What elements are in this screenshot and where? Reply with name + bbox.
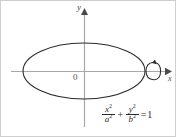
equation-term2-numerator-exponent: 2 (133, 103, 136, 109)
equation-term-x-over-a: x2 a2 (102, 105, 115, 125)
ellipse-figure: y x 0 x2 a2 + y2 b2 = 1 (0, 0, 176, 137)
x-axis-label: x (168, 75, 172, 83)
equation-equals-sign: = (141, 110, 147, 120)
equation-term1-denominator-exponent: 2 (109, 113, 112, 119)
equation-right-hand-value: 1 (147, 110, 152, 120)
equation-term2-denominator-exponent: 2 (133, 113, 136, 119)
origin-label: 0 (73, 73, 78, 82)
equation-term-y-over-b: y2 b2 (126, 105, 139, 125)
equation-plus-operator: + (118, 110, 124, 120)
equation-term2-denominator: b2 (126, 115, 138, 124)
equation-term1-numerator-exponent: 2 (109, 103, 112, 109)
y-axis-arrowhead (81, 8, 88, 15)
equation-term1-denominator: a2 (103, 115, 115, 124)
y-axis-label: y (77, 3, 81, 12)
ellipse-equation: x2 a2 + y2 b2 = 1 (101, 105, 152, 125)
